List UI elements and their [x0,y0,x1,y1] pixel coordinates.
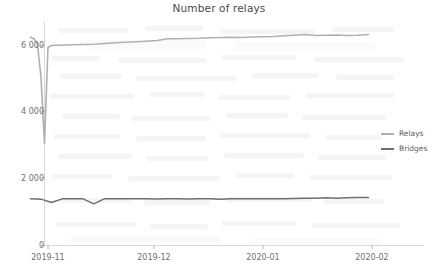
plot-area [0,0,438,273]
series-line-bridges [30,198,368,204]
chart-container: Number of relays 6 000 4 000 2 000 0 [0,0,438,273]
chart-legend: Relays Bridges [381,126,427,156]
y-tick-label: 0 [4,241,44,250]
x-tick-label: 2020-02 [355,253,388,262]
legend-label-relays: Relays [399,129,424,138]
legend-swatch-bridges [381,148,394,150]
x-tick-label: 2020-01 [246,253,279,262]
legend-item-bridges[interactable]: Bridges [381,141,427,156]
x-tick-label: 2019-11 [31,253,64,262]
y-tick-label: 2 000 [4,174,44,183]
y-tick-label: 6 000 [4,41,44,50]
x-tick-label: 2019-12 [137,253,170,262]
y-tick-label: 4 000 [4,107,44,116]
legend-label-bridges: Bridges [399,144,427,153]
legend-item-relays[interactable]: Relays [381,126,427,141]
y-axis-tick-labels: 6 000 4 000 2 000 0 [0,0,44,273]
x-axis-ticks [48,246,372,250]
series-line-relays [30,35,368,144]
legend-swatch-relays [381,133,394,135]
